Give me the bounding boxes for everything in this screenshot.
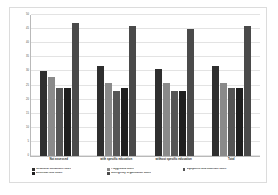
bar <box>105 83 112 156</box>
bar-group <box>146 15 203 156</box>
bar <box>163 83 170 156</box>
bar <box>56 88 63 156</box>
x-axis-tick-label: without specific education <box>145 158 203 166</box>
x-axis-tick-label: Not assessed <box>30 158 88 166</box>
x-axis-tick-label: Total <box>203 158 261 166</box>
bar <box>187 29 194 156</box>
legend-label: Electrical Risk Score <box>36 172 63 175</box>
y-axis-tick-label: 45 <box>26 28 29 31</box>
bar-chart-figure: 05101520253035404550 Not assessedwith sp… <box>9 7 267 183</box>
bar-group <box>88 15 145 156</box>
x-axis-tick-label: with specific education <box>88 158 146 166</box>
bar <box>48 77 55 156</box>
y-axis-tick-label: 0 <box>28 155 29 158</box>
bar <box>155 69 162 156</box>
x-axis-labels: Not assessedwith specific educationwitho… <box>30 158 260 166</box>
legend-item[interactable]: Structural Conditions score <box>32 168 107 171</box>
legend-swatch-icon <box>107 168 110 171</box>
y-axis-tick-label: 35 <box>26 56 29 59</box>
bar <box>236 88 243 156</box>
bars-layer <box>31 15 260 156</box>
bar <box>212 66 219 156</box>
y-axis-tick-label: 5 <box>28 141 29 144</box>
y-axis-tick-label: 25 <box>26 84 29 87</box>
bar <box>220 83 227 156</box>
bar <box>171 91 178 156</box>
bar <box>179 91 186 156</box>
legend-label: Emergency Organization Score <box>111 172 151 175</box>
bar-group <box>31 15 88 156</box>
legend-label: Equipment and materials score <box>187 168 227 171</box>
bar <box>72 23 79 156</box>
legend-label: Structural Conditions score <box>36 168 71 171</box>
bar <box>121 88 128 156</box>
legend-item[interactable]: Electrical Risk Score <box>32 172 107 175</box>
legend-item[interactable]: Emergency Organization Score <box>107 172 182 175</box>
bar <box>244 26 251 156</box>
y-axis-tick-label: 20 <box>26 98 29 101</box>
legend-item[interactable]: Equipment and materials score <box>183 168 258 171</box>
legend-swatch-icon <box>183 168 186 171</box>
y-axis-tick-label: 10 <box>26 127 29 130</box>
y-axis-tick-label: 40 <box>26 42 29 45</box>
legend-swatch-icon <box>107 172 110 175</box>
bar <box>40 71 47 156</box>
y-axis-tick-label: 30 <box>26 70 29 73</box>
y-axis-tick-label: 50 <box>26 14 29 17</box>
bar <box>228 88 235 156</box>
bar-group <box>203 15 260 156</box>
legend-swatch-icon <box>32 172 35 175</box>
y-axis-tick-label: 15 <box>26 112 29 115</box>
chart-legend: Structural Conditions scorePlayground sc… <box>32 168 258 176</box>
plot-area: 05101520253035404550 <box>30 15 260 157</box>
bar <box>97 66 104 156</box>
legend-item[interactable]: Playground score <box>107 168 182 171</box>
bar <box>64 88 71 156</box>
bar <box>113 91 120 156</box>
legend-label: Playground score <box>111 168 134 171</box>
legend-swatch-icon <box>32 168 35 171</box>
bar <box>129 26 136 156</box>
